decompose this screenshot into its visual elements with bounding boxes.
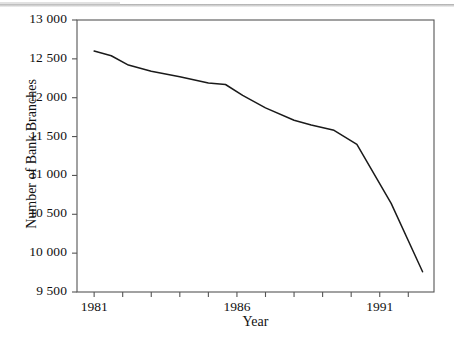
y-tick-label: 11 500: [0, 128, 67, 144]
y-axis-title: Number of Bank Branches: [24, 44, 40, 264]
line-chart: Number of Bank Branches Year 9 50010 000…: [0, 0, 454, 337]
axis-lines: [77, 20, 434, 292]
x-tick-label: 1986: [207, 299, 267, 315]
series-line-bank-branches: [94, 51, 422, 272]
x-tick-label: 1981: [64, 299, 124, 315]
y-tick-label: 10 000: [0, 244, 67, 260]
y-tick-label: 13 000: [0, 11, 67, 27]
x-axis-ticks: [94, 292, 408, 297]
y-tick-label: 12 500: [0, 50, 67, 66]
y-tick-label: 11 000: [0, 166, 67, 182]
y-tick-label: 12 000: [0, 89, 67, 105]
y-tick-label: 9 500: [0, 283, 67, 299]
y-tick-label: 10 500: [0, 205, 67, 221]
data-series-group: [94, 51, 422, 272]
plot-canvas: [0, 0, 454, 337]
plot-frame: [77, 20, 434, 292]
y-axis-ticks: [72, 20, 77, 292]
x-tick-label: 1991: [350, 299, 410, 315]
x-axis-title: Year: [77, 314, 434, 330]
